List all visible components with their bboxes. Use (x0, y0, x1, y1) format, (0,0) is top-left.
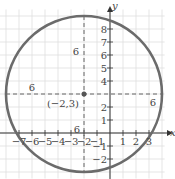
radius-label-right: 6 (150, 97, 156, 108)
graph-svg: −7−6−5−4−3−2−11238765421−1−2xy(−2,3)6666 (0, 0, 175, 179)
center-label: (−2,3) (47, 98, 79, 109)
axes (0, 6, 173, 179)
y-axis-label: y (111, 0, 118, 11)
y-tick-label: −1 (92, 141, 107, 152)
radius-label-top: 6 (73, 46, 79, 57)
y-tick-label: −2 (92, 154, 107, 165)
x-tick-label: 3 (146, 136, 152, 147)
y-tick-label: 6 (101, 50, 107, 61)
x-axis-label: x (170, 127, 175, 138)
y-tick-label: 2 (101, 102, 107, 113)
x-tick-label: 2 (133, 136, 139, 147)
x-tick-label: 1 (120, 136, 126, 147)
y-tick-label: 7 (101, 37, 107, 48)
radius-label-bottom: 6 (74, 124, 80, 135)
labels: −7−6−5−4−3−2−11238765421−1−2xy(−2,3)6666 (12, 0, 175, 165)
y-tick-label: 4 (101, 76, 107, 87)
radius-label-left: 6 (29, 82, 35, 93)
y-tick-label: 5 (101, 63, 107, 74)
y-tick-label: 1 (101, 115, 107, 126)
circle-graph: −7−6−5−4−3−2−11238765421−1−2xy(−2,3)6666 (0, 0, 175, 179)
y-tick-label: 8 (101, 24, 107, 35)
center-point (82, 92, 87, 97)
